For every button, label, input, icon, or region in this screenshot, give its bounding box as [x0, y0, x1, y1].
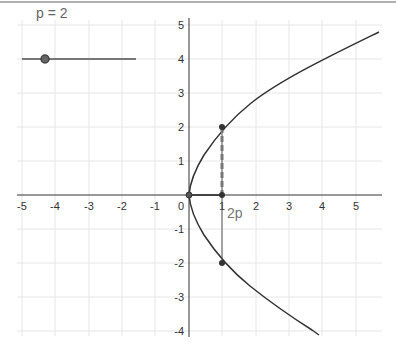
svg-text:-1: -1 [150, 200, 160, 212]
svg-text:-2: -2 [117, 200, 127, 212]
svg-text:3: 3 [286, 200, 292, 212]
slider-handle[interactable] [41, 55, 49, 63]
svg-text:-2: -2 [174, 257, 184, 269]
vertex-point[interactable] [186, 192, 192, 198]
svg-text:-5: -5 [17, 200, 27, 212]
svg-text:5: 5 [178, 19, 184, 31]
parabola-curve[interactable] [189, 32, 379, 335]
x-tick-labels: -5 -4 -3 -2 -1 0 1 2 3 4 5 [17, 200, 359, 212]
svg-text:-4: -4 [174, 325, 184, 337]
grid [17, 20, 382, 336]
segment-label-2p: 2p [227, 205, 243, 221]
svg-text:-3: -3 [174, 291, 184, 303]
svg-text:5: 5 [353, 200, 359, 212]
svg-text:4: 4 [178, 53, 184, 65]
svg-text:2: 2 [253, 200, 259, 212]
graphics-view[interactable]: -5 -4 -3 -2 -1 0 1 2 3 4 5 5 4 3 2 1 -1 … [0, 0, 396, 353]
svg-text:-1: -1 [174, 223, 184, 235]
svg-text:3: 3 [178, 87, 184, 99]
svg-text:1: 1 [178, 155, 184, 167]
focus-point[interactable] [219, 192, 225, 198]
upper-point[interactable] [219, 124, 225, 130]
lower-point[interactable] [219, 260, 225, 266]
svg-text:0: 0 [178, 200, 184, 212]
slider-label: p = 2 [36, 5, 68, 21]
svg-text:2: 2 [178, 121, 184, 133]
svg-text:-4: -4 [50, 200, 60, 212]
svg-text:4: 4 [319, 200, 325, 212]
svg-text:-3: -3 [84, 200, 94, 212]
y-tick-labels: 5 4 3 2 1 -1 -2 -3 -4 [174, 19, 184, 337]
